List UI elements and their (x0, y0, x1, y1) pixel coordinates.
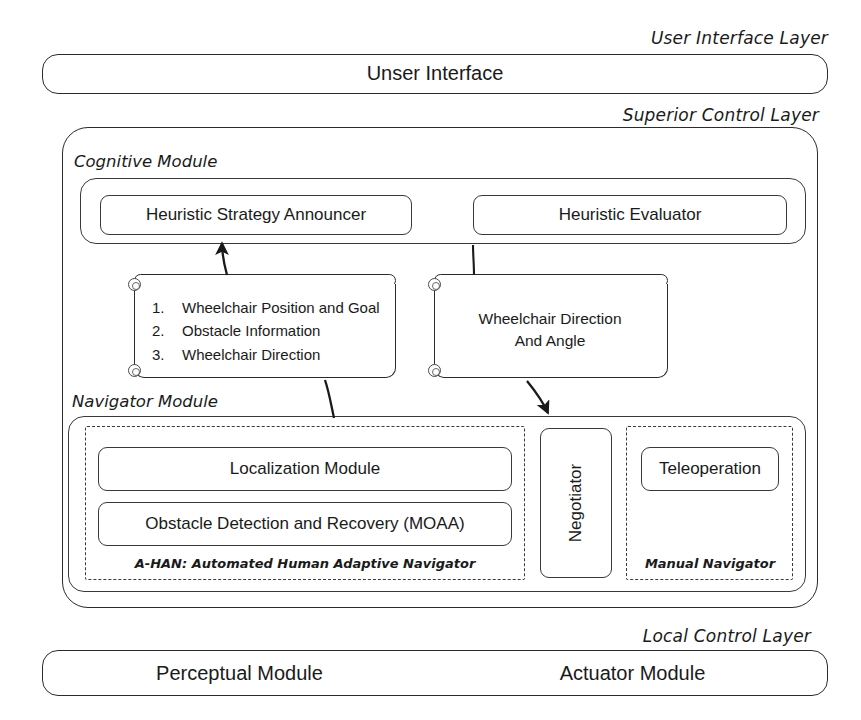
data-note-left: 1. Wheelchair Position and Goal 2. Obsta… (128, 274, 396, 380)
data-note-left-curl-topleft (128, 278, 141, 291)
negotiator-box[interactable]: Negotiator (540, 428, 612, 578)
data-note-left-list: 1. Wheelchair Position and Goal 2. Obsta… (152, 296, 392, 366)
list-item-label: Obstacle Information (182, 319, 320, 342)
perceptual-module-label: Perceptual Module (156, 662, 323, 685)
list-item: 1. Wheelchair Position and Goal (152, 296, 392, 319)
heuristic-evaluator-box[interactable]: Heuristic Evaluator (473, 195, 787, 235)
diagram-canvas: User Interface Layer Unser Interface Sup… (0, 0, 861, 720)
list-item: 3. Wheelchair Direction (152, 343, 392, 366)
list-item-number: 2. (152, 319, 182, 342)
list-item-label: Wheelchair Direction (182, 343, 320, 366)
obstacle-detection-recovery-box[interactable]: Obstacle Detection and Recovery (MOAA) (98, 502, 512, 546)
list-item: 2. Obstacle Information (152, 319, 392, 342)
data-note-left-curl-bottomleft (128, 364, 141, 377)
localization-module-label: Localization Module (99, 448, 511, 490)
local-control-layer-box: Perceptual Module Actuator Module (42, 650, 828, 696)
localization-module-box[interactable]: Localization Module (98, 447, 512, 491)
data-note-right-text: Wheelchair Direction And Angle (442, 300, 658, 360)
local-control-layer-label: Local Control Layer (643, 626, 811, 646)
data-note-right-line2: And Angle (479, 330, 622, 352)
user-interface-box[interactable]: Unser Interface (42, 54, 828, 94)
list-item-number: 1. (152, 296, 182, 319)
negotiator-label-wrap: Negotiator (541, 429, 611, 577)
data-note-right: Wheelchair Direction And Angle (428, 274, 668, 380)
manual-navigator-caption: Manual Navigator (641, 556, 779, 571)
superior-control-layer-label: Superior Control Layer (623, 105, 819, 125)
cognitive-module-label: Cognitive Module (74, 152, 217, 171)
navigator-module-label: Navigator Module (72, 392, 218, 411)
data-note-right-curl-topleft (428, 278, 441, 291)
negotiator-label: Negotiator (566, 464, 586, 542)
list-item-label: Wheelchair Position and Goal (182, 296, 380, 319)
data-note-right-curl-bottomleft (428, 364, 441, 377)
data-note-right-line1: Wheelchair Direction (479, 308, 622, 330)
heuristic-evaluator-label: Heuristic Evaluator (474, 196, 786, 234)
user-interface-box-label: Unser Interface (43, 55, 827, 93)
user-interface-layer-label: User Interface Layer (651, 28, 828, 48)
obstacle-detection-recovery-label: Obstacle Detection and Recovery (MOAA) (99, 503, 511, 545)
perceptual-module-cell[interactable]: Perceptual Module (43, 651, 436, 695)
teleoperation-label: Teleoperation (642, 448, 778, 490)
list-item-number: 3. (152, 343, 182, 366)
a-han-caption: A-HAN: Automated Human Adaptive Navigato… (98, 556, 512, 571)
heuristic-strategy-announcer-label: Heuristic Strategy Announcer (101, 196, 411, 234)
actuator-module-label: Actuator Module (560, 662, 706, 685)
actuator-module-cell[interactable]: Actuator Module (436, 651, 829, 695)
teleoperation-box[interactable]: Teleoperation (641, 447, 779, 491)
heuristic-strategy-announcer-box[interactable]: Heuristic Strategy Announcer (100, 195, 412, 235)
